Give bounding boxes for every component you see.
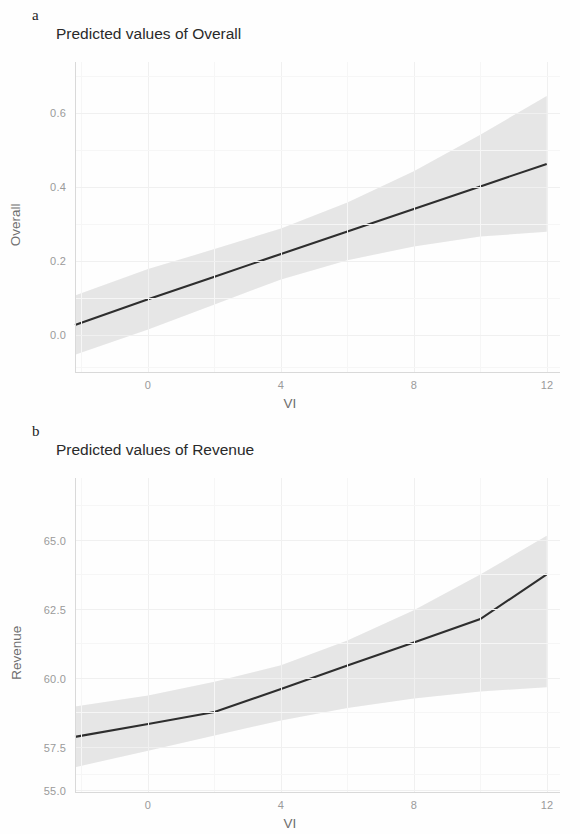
panel-a-ytick-3: 0.0: [22, 330, 66, 341]
panel-a-xtick-2: 8: [394, 380, 434, 391]
panel-a-xtick-3: 12: [527, 380, 567, 391]
panel-b-yaxis-title: Revenue: [10, 616, 24, 690]
panel-b-ytick-3: 57.5: [14, 743, 66, 754]
panel-b-title: Predicted values of Revenue: [56, 442, 254, 458]
panel-a-x-axis-line: [75, 372, 560, 373]
panel-a: a Predicted values of Overall 0.6 0.4 0.…: [0, 0, 580, 414]
panel-a-ytick-1: 0.4: [22, 182, 66, 193]
panel-b-ytick-4: 55.0: [14, 786, 66, 797]
panel-b-y-axis-line: [75, 478, 76, 793]
panel-b-plot-area: [75, 478, 560, 792]
panel-b-gridlines: [75, 478, 560, 792]
panel-a-tag: a: [32, 8, 39, 23]
panel-a-yaxis-title: Overall: [9, 193, 23, 257]
panel-a-gridlines: [75, 62, 560, 372]
panel-b-ytick-1: 62.5: [14, 605, 66, 616]
panel-b-x-axis-line: [75, 792, 560, 793]
panel-b: b Predicted values of Revenue 65.0 62.5 …: [0, 414, 580, 834]
panel-a-y-axis-line: [75, 62, 76, 373]
panel-a-xtick-1: 4: [261, 380, 301, 391]
panel-b-xaxis-title: VI: [240, 817, 340, 831]
panel-b-ytick-0: 65.0: [14, 536, 66, 547]
panel-b-xtick-2: 8: [394, 800, 434, 811]
panel-b-xtick-1: 4: [261, 800, 301, 811]
panel-a-plot-area: [75, 62, 560, 372]
panel-b-xtick-3: 12: [527, 800, 567, 811]
figure-root: a Predicted values of Overall 0.6 0.4 0.…: [0, 0, 580, 834]
panel-b-xtick-0: 0: [128, 800, 168, 811]
panel-a-title: Predicted values of Overall: [56, 26, 241, 42]
panel-b-tag: b: [32, 424, 40, 439]
panel-a-xtick-0: 0: [128, 380, 168, 391]
panel-a-xaxis-title: VI: [240, 397, 340, 411]
panel-a-ytick-2: 0.2: [22, 256, 66, 267]
panel-a-ytick-0: 0.6: [22, 108, 66, 119]
